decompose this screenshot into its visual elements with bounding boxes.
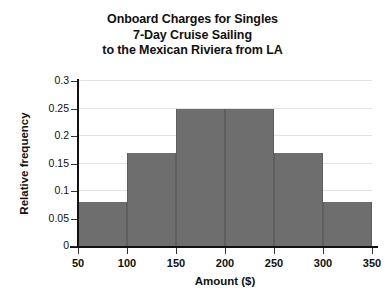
y-axis-tick <box>71 164 77 165</box>
y-axis-tick-label: 0 <box>63 240 69 251</box>
histogram-figure: Onboard Charges for Singles 7-Day Cruise… <box>0 0 385 305</box>
y-axis-tick-label: 0.2 <box>54 130 69 141</box>
chart-title: Onboard Charges for Singles 7-Day Cruise… <box>0 12 385 59</box>
x-axis-title: Amount ($) <box>78 275 372 287</box>
y-axis-line <box>77 79 79 248</box>
x-axis-tick <box>372 248 373 254</box>
histogram-bar <box>274 153 323 247</box>
y-axis-tick-label: 0.3 <box>54 75 69 86</box>
histogram-bar <box>225 109 274 247</box>
x-axis-tick-label: 200 <box>205 257 245 269</box>
y-axis-tick <box>71 246 77 247</box>
y-axis-tick <box>71 191 77 192</box>
y-axis-title: Relative frequency <box>18 81 36 246</box>
x-axis-tick <box>274 248 275 254</box>
y-axis-tick <box>71 136 77 137</box>
x-axis-tick-label: 150 <box>156 257 196 269</box>
x-axis-tick <box>176 248 177 254</box>
chart-title-line-2: 7-Day Cruise Sailing <box>0 28 385 44</box>
plot-area <box>78 81 372 246</box>
x-axis-tick <box>323 248 324 254</box>
x-axis-tick <box>225 248 226 254</box>
gridline <box>78 80 372 81</box>
x-axis-tick-label: 50 <box>58 257 98 269</box>
x-axis-line <box>70 246 378 248</box>
histogram-bar <box>127 153 176 247</box>
histogram-bar <box>78 202 127 246</box>
y-axis-tick-label: 0.1 <box>54 185 69 196</box>
y-axis-tick-label: 0.15 <box>49 158 69 169</box>
x-axis-tick <box>127 248 128 254</box>
histogram-bar <box>176 109 225 247</box>
y-axis-tick-label: 0.25 <box>49 103 69 114</box>
y-axis-tick <box>71 219 77 220</box>
chart-title-line-3: to the Mexican Riviera from LA <box>0 43 385 59</box>
histogram-bar <box>323 202 372 246</box>
x-axis-tick-label: 350 <box>352 257 385 269</box>
y-axis-tick <box>71 81 77 82</box>
chart-title-line-1: Onboard Charges for Singles <box>0 12 385 28</box>
x-axis-tick-label: 300 <box>303 257 343 269</box>
y-axis-tick-label: 0.05 <box>49 213 69 224</box>
x-axis-tick <box>78 248 79 254</box>
x-axis-tick-label: 250 <box>254 257 294 269</box>
x-axis-tick-label: 100 <box>107 257 147 269</box>
y-axis-tick <box>71 109 77 110</box>
